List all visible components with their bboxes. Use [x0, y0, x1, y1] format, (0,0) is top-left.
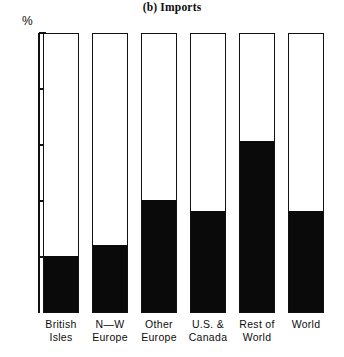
bar-2 [92, 33, 128, 313]
bar-3 [141, 33, 177, 313]
bar-4 [190, 33, 226, 313]
bar-fill-segment [240, 141, 274, 312]
bar-5 [239, 33, 275, 313]
bar-fill-segment [142, 200, 176, 312]
bar-6 [288, 33, 324, 313]
bar-fill-segment [289, 211, 323, 312]
bar-fill-segment [44, 256, 78, 312]
y-axis-unit-label: % [22, 14, 33, 28]
bar-fill-segment [93, 245, 127, 312]
category-label-line1: Other [145, 318, 173, 330]
category-label-line2: World [220, 331, 294, 344]
plot-area: 20406080100 [38, 33, 338, 313]
category-label-line1: World [292, 318, 321, 330]
category-label-6: World [269, 318, 343, 331]
chart-title: (b) Imports [0, 1, 344, 13]
bar-fill-segment [191, 211, 225, 312]
bar-1 [43, 33, 79, 313]
chart-figure: (b) Imports % 20406080100 BritishIslesN—… [0, 0, 344, 357]
y-axis-line [38, 33, 40, 313]
category-label-line1: N—W [96, 318, 125, 330]
category-label-line1: British [45, 318, 76, 330]
